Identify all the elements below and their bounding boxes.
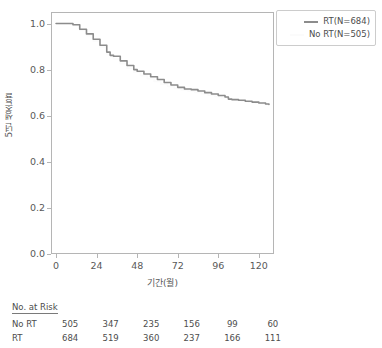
y-tick-label: 0.0: [12, 249, 45, 259]
risk-row-label: RT: [12, 332, 22, 345]
legend-label-no-rt: No RT(N=505): [309, 29, 370, 40]
risk-cell: 166: [214, 332, 250, 345]
number-at-risk-table: No. at Risk No RT5053472351569960RT68451…: [12, 295, 372, 346]
y-tick-mark: [47, 162, 51, 163]
x-tick-mark: [259, 254, 260, 258]
survival-curves: [51, 12, 274, 254]
series-line: [56, 24, 269, 105]
y-tick-label: 0.8: [12, 65, 45, 75]
risk-cell: 519: [93, 332, 129, 345]
risk-cell: 99: [214, 318, 250, 331]
risk-cell: 111: [255, 332, 291, 345]
risk-table-title: No. at Risk: [12, 302, 58, 314]
legend-line-icon-no-rt: [290, 34, 304, 36]
x-tick-label: 0: [36, 261, 76, 271]
x-tick-mark: [56, 254, 57, 258]
x-tick-label: 24: [77, 261, 117, 271]
y-tick-label: 0.4: [12, 157, 45, 167]
chart-legend: RT(N=684) No RT(N=505): [276, 10, 376, 46]
risk-cell: 235: [133, 318, 169, 331]
y-tick-mark: [47, 208, 51, 209]
x-axis-title: 기간(월): [51, 276, 274, 289]
legend-line-icon-rt: [304, 21, 318, 23]
x-tick-label: 48: [117, 261, 157, 271]
risk-table-row: No RT5053472351569960: [12, 318, 372, 332]
legend-label-rt: RT(N=684): [323, 16, 370, 27]
y-tick-mark: [47, 70, 51, 71]
x-tick-mark: [218, 254, 219, 258]
survival-chart-figure: 1.00.80.60.40.20.0 5년 생존율 024487296120 기…: [0, 0, 382, 348]
x-tick-mark: [97, 254, 98, 258]
y-tick-mark: [47, 254, 51, 255]
risk-cell: 156: [174, 318, 210, 331]
risk-cell: 684: [52, 332, 88, 345]
y-tick-mark: [47, 24, 51, 25]
y-axis-title: 5년 생존율: [2, 93, 24, 138]
risk-table-row: RT684519360237166111: [12, 332, 372, 346]
legend-item-rt: RT(N=684): [281, 15, 370, 28]
y-tick-mark: [47, 116, 51, 117]
risk-cell: 60: [255, 318, 291, 331]
x-tick-mark: [178, 254, 179, 258]
risk-cell: 237: [174, 332, 210, 345]
risk-table-rows: No RT5053472351569960RT68451936023716611…: [12, 318, 372, 346]
risk-cell: 505: [52, 318, 88, 331]
risk-cell: 347: [93, 318, 129, 331]
risk-row-label: No RT: [12, 318, 37, 331]
x-tick-label: 72: [158, 261, 198, 271]
x-tick-label: 96: [198, 261, 238, 271]
y-tick-label: 0.2: [12, 203, 45, 213]
y-tick-label: 1.0: [12, 19, 45, 29]
x-tick-mark: [137, 254, 138, 258]
x-tick-label: 120: [239, 261, 279, 271]
legend-item-no-rt: No RT(N=505): [281, 28, 370, 41]
risk-cell: 360: [133, 332, 169, 345]
